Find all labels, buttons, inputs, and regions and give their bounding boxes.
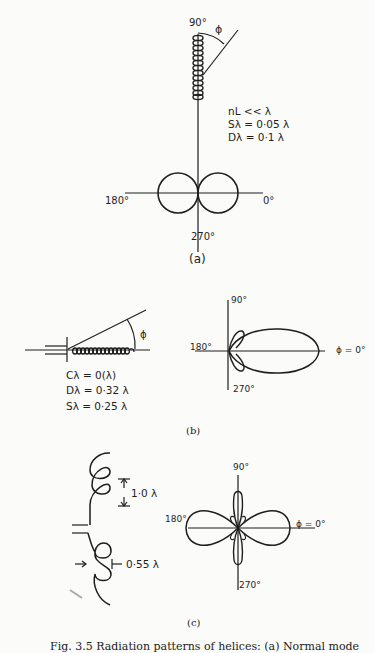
a-panel-label: (a)	[189, 253, 206, 265]
b-angle-0: ϕ = 0°	[336, 346, 365, 355]
b-param-s: Sλ = 0·25 λ	[66, 401, 127, 412]
c-panel-label: (c)	[187, 617, 200, 628]
b-angle-180: 180°	[190, 343, 212, 352]
a-angle-270: 270°	[191, 232, 215, 242]
a-angle-90: 90°	[189, 18, 207, 28]
c-angle-0: ϕ = 0°	[296, 520, 325, 529]
b-phi-symbol: ϕ	[140, 330, 147, 340]
b-angle-270: 270°	[233, 385, 255, 394]
a-param-nl: nL << λ	[228, 106, 271, 117]
a-angle-180: 180°	[105, 196, 129, 206]
c-angle-90: 90°	[233, 463, 249, 472]
c-angle-270: 270°	[239, 581, 261, 590]
a-param-d: Dλ = 0·1 λ	[228, 132, 284, 143]
figure-caption: Fig. 3.5 Radiation patterns of helices: …	[50, 640, 359, 653]
b-param-c: Cλ = 0(λ)	[66, 370, 116, 381]
a-angle-0: 0°	[263, 196, 274, 206]
c-dim-diameter: 0·55 λ	[126, 559, 159, 570]
a-phi-symbol: ϕ	[215, 24, 222, 35]
b-param-d: Dλ = 0·32 λ	[66, 385, 129, 396]
c-dim-pitch: 1·0 λ	[131, 488, 157, 499]
b-angle-90: 90°	[231, 296, 247, 305]
c-angle-180: 180°	[165, 515, 187, 524]
helix-horizontal-coil	[73, 348, 134, 354]
a-param-s: Sλ = 0·05 λ	[228, 119, 289, 130]
panel-c-conical-mode	[70, 453, 315, 605]
b-panel-label: (b)	[186, 425, 200, 436]
